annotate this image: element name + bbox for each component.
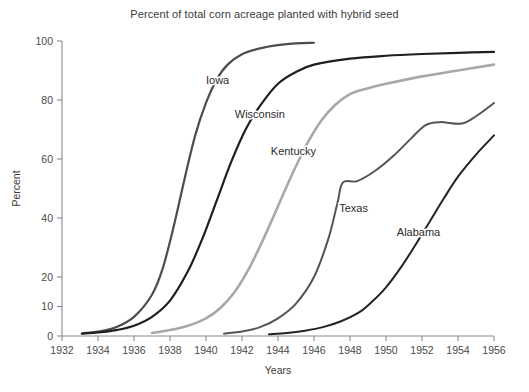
x-tick-label: 1934 [86, 344, 110, 356]
chart-figure: Percent of total corn acreage planted wi… [0, 0, 529, 392]
y-tick-label: 80 [41, 94, 53, 106]
series-label-iowa: Iowa [206, 74, 230, 86]
y-tick-label: 100 [35, 35, 53, 47]
x-tick-label: 1950 [374, 344, 398, 356]
series-label-wisconsin: Wisconsin [235, 108, 285, 120]
axes-group: 0102040608010019321934193619381940194219… [35, 35, 505, 356]
x-axis-title: Years [265, 364, 291, 376]
y-tick-label: 60 [41, 153, 53, 165]
x-tick-label: 1956 [482, 344, 506, 356]
x-tick-label: 1944 [266, 344, 290, 356]
x-tick-label: 1948 [338, 344, 362, 356]
series-line-iowa [84, 43, 314, 333]
x-tick-label: 1952 [410, 344, 434, 356]
y-axis-title: Percent [10, 170, 22, 206]
series-labels-group: IowaIowaWisconsinWisconsinKentuckyKentuc… [206, 74, 441, 238]
x-tick-label: 1936 [122, 344, 146, 356]
y-tick-label: 20 [41, 271, 53, 283]
x-tick-label: 1946 [302, 344, 326, 356]
series-label-texas: Texas [339, 202, 368, 214]
y-tick-label: 40 [41, 212, 53, 224]
series-group [82, 43, 494, 334]
x-tick-label: 1942 [230, 344, 254, 356]
chart-plot-area: 0102040608010019321934193619381940194219… [0, 0, 529, 392]
series-label-alabama: Alabama [397, 226, 441, 238]
x-tick-label: 1940 [194, 344, 218, 356]
y-tick-label: 0 [47, 330, 53, 342]
series-line-wisconsin [82, 52, 494, 334]
series-line-texas [224, 103, 494, 334]
x-tick-label: 1932 [50, 344, 74, 356]
x-tick-label: 1938 [158, 344, 182, 356]
y-tick-label: 10 [41, 300, 53, 312]
series-label-kentucky: Kentucky [271, 145, 317, 157]
x-tick-label: 1954 [446, 344, 470, 356]
